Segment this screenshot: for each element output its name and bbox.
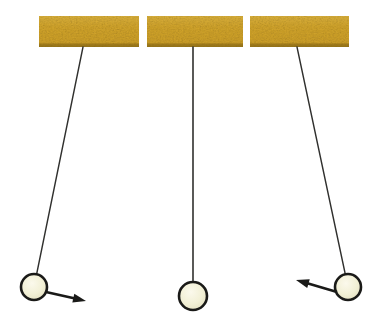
middle-pendulum-bob bbox=[179, 282, 207, 310]
right-support-bar bbox=[250, 16, 349, 47]
pendulum-diagram-canvas bbox=[0, 0, 390, 329]
left-support-bar-shadow bbox=[39, 44, 139, 48]
left-support-bar bbox=[39, 16, 139, 47]
support-bars-group bbox=[39, 16, 349, 47]
middle-support-bar-shadow bbox=[147, 44, 243, 48]
right-support-bar-shadow bbox=[250, 44, 349, 48]
left-support-bar-body bbox=[39, 16, 139, 47]
middle-support-bar bbox=[147, 16, 243, 47]
right-pendulum-bob bbox=[335, 274, 361, 300]
right-support-bar-body bbox=[250, 16, 349, 47]
pendulum-figure bbox=[0, 0, 390, 329]
middle-support-bar-body bbox=[147, 16, 243, 47]
left-pendulum-bob bbox=[21, 274, 47, 300]
